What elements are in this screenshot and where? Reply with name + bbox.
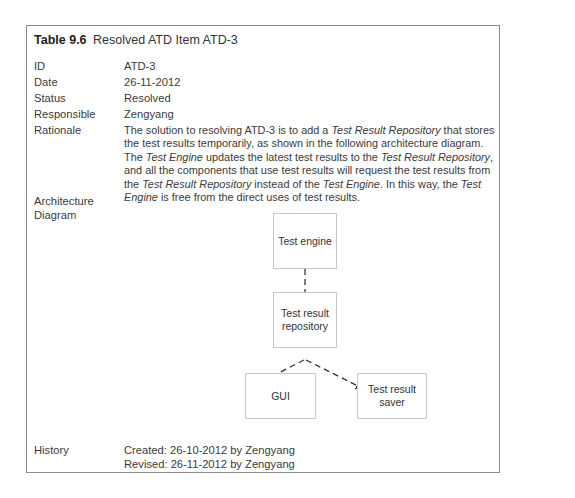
history-value: Created: 26-10-2012 by Zengyang Revised:…: [124, 444, 499, 471]
node-test-result-repository: Test result repository: [273, 292, 337, 348]
responsible-value: Zengyang: [124, 108, 499, 122]
date-value: 26-11-2012: [124, 76, 499, 90]
status-label: Status: [34, 92, 114, 106]
table-number: Table 9.6: [34, 33, 87, 47]
table-title: Table 9.6 Resolved ATD Item ATD-3: [34, 33, 238, 47]
id-value: ATD-3: [124, 60, 499, 74]
rationale-label: Rationale: [34, 124, 114, 138]
table-caption: Resolved ATD Item ATD-3: [93, 33, 238, 47]
node-gui: GUI: [245, 373, 316, 419]
table-9-6: Table 9.6 Resolved ATD Item ATD-3 ID ATD…: [26, 25, 500, 473]
responsible-label: Responsible: [34, 108, 114, 122]
status-value: Resolved: [124, 92, 499, 106]
node-test-result-saver: Test result saver: [357, 373, 427, 419]
history-label: History: [34, 444, 114, 458]
history-created: Created: 26-10-2012 by Zengyang: [124, 444, 295, 456]
date-label: Date: [34, 76, 114, 90]
architecture-label: Architecture Diagram: [34, 195, 114, 222]
node-test-engine: Test engine: [273, 213, 337, 269]
rationale-text: The solution to resolving ATD-3 is to ad…: [124, 124, 499, 204]
id-label: ID: [34, 60, 114, 74]
history-revised: Revised: 26-11-2012 by Zengyang: [124, 458, 295, 470]
